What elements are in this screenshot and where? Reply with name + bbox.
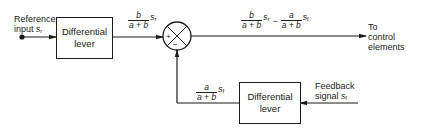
plus-sign: + [166, 33, 171, 41]
differential-lever-block-feedback: Differential lever [239, 82, 301, 124]
reference-input-label: Reference input sr [14, 14, 56, 36]
error-signal-label: ba + b sr − aa + b sf [241, 11, 309, 30]
minus-sign: − [173, 41, 178, 49]
reference-scaled-signal-label: ba + b sr [128, 11, 156, 30]
block-diagram: Reference input sr Differential lever ba… [0, 0, 422, 134]
to-control-elements-label: To control elements [368, 22, 405, 52]
feedback-scaled-signal-label: aa + b sf [196, 83, 224, 102]
feedback-signal-label: Feedback signal sf [315, 81, 355, 103]
differential-lever-block-top: Differential lever [56, 17, 113, 59]
